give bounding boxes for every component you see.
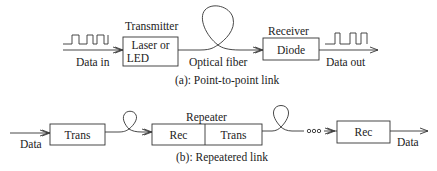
ellipsis-dot — [307, 129, 310, 132]
optical-fiber-label: Optical fiber — [189, 56, 247, 68]
data-in-label-b: Data — [20, 138, 42, 150]
output-square-wave — [325, 33, 367, 44]
repeater-title: Repeater — [186, 111, 227, 123]
transmitter-title: Transmitter — [125, 20, 178, 32]
trans-box-label: Trans — [50, 129, 105, 141]
input-square-wave — [63, 35, 108, 44]
caption-a: (a): Point-to-point link — [175, 74, 279, 86]
ellipsis-dot — [317, 129, 320, 132]
receiver-title: Receiver — [268, 25, 309, 37]
receiver-body: Diode — [263, 44, 319, 56]
ellipsis-dot — [312, 129, 315, 132]
final-rec-label: Rec — [337, 126, 390, 138]
caption-b: (b): Repeatered link — [176, 151, 268, 163]
transmitter-line1: Laser or — [123, 39, 178, 51]
fiber-loop-2 — [262, 106, 304, 132]
repeater-trans-label: Trans — [205, 129, 262, 141]
data-in-label: Data in — [76, 56, 110, 68]
repeater-rec-label: Rec — [152, 129, 205, 141]
optical-fiber-loop — [178, 6, 263, 50]
data-out-label-b: Data — [397, 136, 419, 148]
data-out-label: Data out — [326, 56, 365, 68]
transmitter-line2: LED — [118, 52, 158, 64]
